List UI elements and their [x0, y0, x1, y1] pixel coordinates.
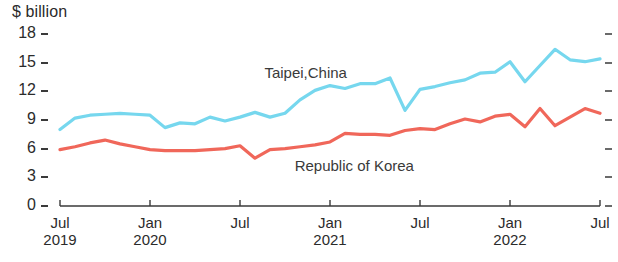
x-axis-tick-label: Jul [590, 214, 609, 231]
x-axis-tick-label: Jan2021 [313, 214, 346, 249]
x-axis-tick-label-month: Jul [590, 214, 609, 231]
line-chart: $ billion 0369121518 Jul2019Jan2020JulJa… [0, 0, 618, 262]
y-axis-tick-label: 6 [6, 140, 36, 156]
x-axis-tick-label: Jul [230, 214, 249, 231]
y-axis-tick-mark-right [605, 62, 612, 64]
series-line-0 [60, 49, 600, 129]
y-axis-tick-label: 12 [6, 82, 36, 98]
x-axis-tick-label-month: Jul [50, 214, 69, 231]
y-axis-tick-mark-right [605, 205, 612, 207]
y-axis-tick-mark [41, 119, 48, 121]
x-axis-tick-label-month: Jan [318, 214, 342, 231]
y-axis-tick-mark [41, 176, 48, 178]
y-axis-tick-mark-right [605, 33, 612, 35]
y-axis-tick-mark-right [605, 90, 612, 92]
series-label-0: Taipei,China [264, 64, 347, 81]
x-axis-tick-label: Jan2020 [133, 214, 166, 249]
y-axis-tick-mark [41, 148, 48, 150]
x-axis-tick-label-month: Jul [230, 214, 249, 231]
x-axis-tick-label-year: 2021 [313, 231, 346, 248]
y-axis-tick-mark [41, 90, 48, 92]
y-axis-tick-mark-right [605, 176, 612, 178]
x-axis-tick-label: Jul2019 [43, 214, 76, 249]
y-axis-tick-mark [41, 205, 48, 207]
y-axis-tick-mark-right [605, 119, 612, 121]
x-axis-tick-label-month: Jan [498, 214, 522, 231]
x-axis-tick-label-month: Jan [138, 214, 162, 231]
y-axis-tick-mark [41, 33, 48, 35]
y-axis-tick-mark [41, 62, 48, 64]
y-axis-tick-label: 0 [6, 197, 36, 213]
y-axis-tick-label: 18 [6, 25, 36, 41]
x-axis-tick-label-year: 2022 [493, 231, 526, 248]
series-label-1: Republic of Korea [295, 157, 414, 174]
x-axis-tick-label-year: 2019 [43, 231, 76, 248]
y-axis-tick-mark-right [605, 148, 612, 150]
x-axis-tick-label-year: 2020 [133, 231, 166, 248]
y-axis-tick-label: 15 [6, 54, 36, 70]
x-axis-tick-label: Jul [410, 214, 429, 231]
y-axis-tick-label: 3 [6, 168, 36, 184]
x-axis-tick-label-month: Jul [410, 214, 429, 231]
y-axis-tick-label: 9 [6, 111, 36, 127]
x-axis-tick-label: Jan2022 [493, 214, 526, 249]
axis-lines [60, 200, 600, 206]
